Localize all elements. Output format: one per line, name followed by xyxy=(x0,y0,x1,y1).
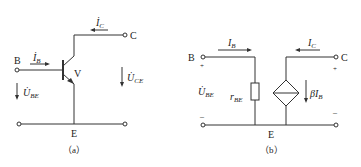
label-uce-a: U̇CE xyxy=(127,72,144,85)
terminal-c-b xyxy=(334,55,338,59)
terminal-e-left-b xyxy=(201,123,205,127)
caption-a: （a） xyxy=(63,145,85,155)
label-c-a: C xyxy=(130,30,137,41)
plus-b: + xyxy=(200,62,204,70)
ib-arrowhead-b xyxy=(247,48,252,52)
uce-arrowhead-a xyxy=(120,82,124,87)
minus-b: – xyxy=(199,112,205,121)
plus-c: + xyxy=(333,65,337,73)
resistor-rbe xyxy=(251,83,259,100)
terminal-b-b xyxy=(201,55,205,59)
label-b-a: B xyxy=(14,55,21,66)
terminal-c-a xyxy=(123,33,127,37)
ic-arrowhead-a xyxy=(90,28,95,32)
terminal-b-a xyxy=(15,68,19,72)
collector-lead xyxy=(63,56,74,66)
label-ib-a: İB xyxy=(32,52,41,65)
label-ube-a: U̇BE xyxy=(23,87,40,100)
label-ic-b: IC xyxy=(307,37,316,50)
label-b-b: B xyxy=(188,52,195,63)
label-rbe: rBE xyxy=(230,91,243,104)
ube-arrowhead-a xyxy=(15,95,19,100)
label-e-a: E xyxy=(71,128,77,139)
label-e-b: E xyxy=(268,129,274,140)
terminal-e-left-a xyxy=(17,122,21,126)
ib-arrowhead-a xyxy=(45,62,50,66)
caption-b: （b） xyxy=(260,145,283,155)
label-transistor-v: V xyxy=(74,68,82,79)
label-ib-b: IB xyxy=(227,37,236,50)
label-c-b: C xyxy=(341,52,348,63)
ic-arrowhead-b xyxy=(295,48,300,52)
label-ic-a: İC xyxy=(95,17,104,30)
label-beta-ib: βIB xyxy=(309,88,323,101)
source-arrowhead xyxy=(304,98,308,103)
terminal-e-right-a xyxy=(123,122,127,126)
label-ube-b: U̇BE xyxy=(198,86,215,99)
circuit-diagram: B C E V İB İC U̇BE U̇CE （a） B C E IB IC … xyxy=(0,0,361,167)
terminal-e-right-b xyxy=(334,123,338,127)
minus-c: – xyxy=(332,108,338,117)
